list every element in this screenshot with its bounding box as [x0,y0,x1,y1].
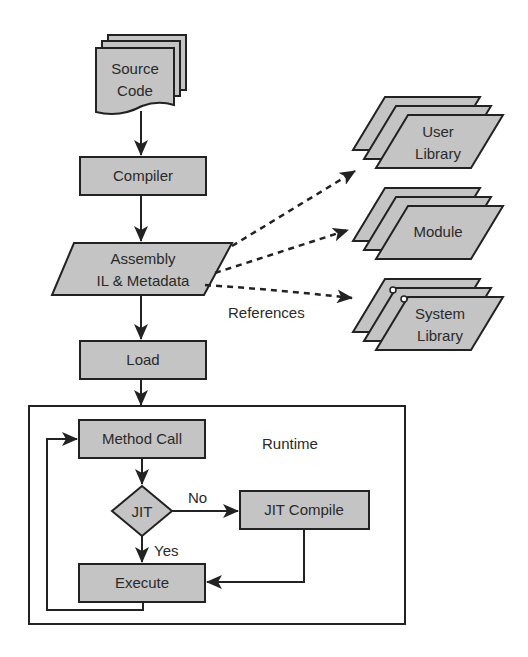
user-library-node: User Library [353,97,503,168]
module-label: Module [413,223,462,240]
no-label: No [188,489,207,506]
arrow-jitcompile-to-execute [207,529,304,582]
system-library-label-2: Library [417,327,463,344]
references-label: References [228,304,305,321]
load-node: Load [80,341,206,379]
jit-compile-node: JIT Compile [240,491,369,529]
load-label: Load [126,351,159,368]
flowchart-svg: Source Code Compiler Assembly IL & Metad… [0,0,528,657]
dashed-arrow-to-user-library [232,171,355,246]
binding-ring-icon [401,296,407,302]
compiler-node: Compiler [80,157,206,195]
user-library-label-1: User [422,123,454,140]
source-code-node: Source Code [96,35,186,114]
execute-node: Execute [79,564,205,602]
binding-ring-icon [390,287,396,293]
source-code-label-1: Source [111,60,159,77]
assembly-node: Assembly IL & Metadata [52,243,232,295]
compiler-label: Compiler [113,167,173,184]
user-library-label-2: Library [415,145,461,162]
source-code-label-2: Code [117,82,153,99]
jit-label: JIT [132,503,153,520]
system-library-label-1: System [415,305,465,322]
flowchart-canvas: Source Code Compiler Assembly IL & Metad… [0,0,528,657]
assembly-label-2: IL & Metadata [97,272,190,289]
module-node: Module [353,188,503,259]
assembly-label-1: Assembly [110,250,176,267]
system-library-node: System Library [353,279,503,350]
yes-label: Yes [154,542,178,559]
method-call-node: Method Call [79,420,205,458]
jit-compile-label: JIT Compile [264,501,344,518]
dashed-arrow-to-system-library [205,285,352,298]
method-call-label: Method Call [102,430,182,447]
dashed-arrow-to-module [215,230,348,273]
runtime-label: Runtime [262,435,318,452]
execute-label: Execute [115,574,169,591]
jit-decision-node: JIT [112,486,172,536]
